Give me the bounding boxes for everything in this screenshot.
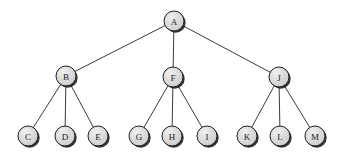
node-layer: ABFJCDEGHIKLM — [18, 11, 327, 148]
tree-diagram: ABFJCDEGHIKLM — [0, 0, 346, 162]
tree-diagram-canvas: ABFJCDEGHIKLM — [0, 0, 346, 162]
tree-node-b[interactable]: B — [56, 66, 78, 88]
tree-node-h[interactable]: H — [162, 126, 184, 148]
node-circle[interactable] — [163, 67, 183, 87]
node-circle[interactable] — [129, 126, 149, 146]
tree-edge — [33, 84, 61, 129]
tree-edge — [182, 25, 271, 73]
tree-edge — [284, 85, 311, 129]
tree-node-c[interactable]: C — [18, 126, 40, 148]
tree-node-f[interactable]: F — [163, 67, 185, 89]
tree-edge — [177, 85, 202, 128]
node-circle[interactable] — [237, 126, 257, 146]
tree-edge — [279, 86, 280, 127]
tree-edge — [65, 85, 66, 127]
tree-node-d[interactable]: D — [55, 126, 77, 148]
tree-node-e[interactable]: E — [88, 126, 110, 148]
node-circle[interactable] — [56, 66, 76, 86]
tree-edge — [74, 25, 166, 72]
tree-node-l[interactable]: L — [270, 126, 292, 148]
tree-edge — [251, 85, 274, 128]
tree-edge — [143, 85, 168, 128]
node-circle[interactable] — [88, 126, 108, 146]
node-circle[interactable] — [164, 11, 184, 31]
tree-node-j[interactable]: J — [269, 67, 291, 89]
tree-node-g[interactable]: G — [129, 126, 151, 148]
tree-node-a[interactable]: A — [164, 11, 186, 33]
tree-edge — [172, 86, 173, 127]
node-circle[interactable] — [197, 126, 217, 146]
node-circle[interactable] — [270, 126, 290, 146]
tree-edge — [70, 84, 94, 128]
node-circle[interactable] — [18, 126, 38, 146]
node-circle[interactable] — [162, 126, 182, 146]
node-circle[interactable] — [55, 126, 75, 146]
node-circle[interactable] — [305, 126, 325, 146]
tree-node-i[interactable]: I — [197, 126, 219, 148]
node-circle[interactable] — [269, 67, 289, 87]
tree-edge — [173, 30, 174, 68]
tree-node-m[interactable]: M — [305, 126, 327, 148]
tree-node-k[interactable]: K — [237, 126, 259, 148]
